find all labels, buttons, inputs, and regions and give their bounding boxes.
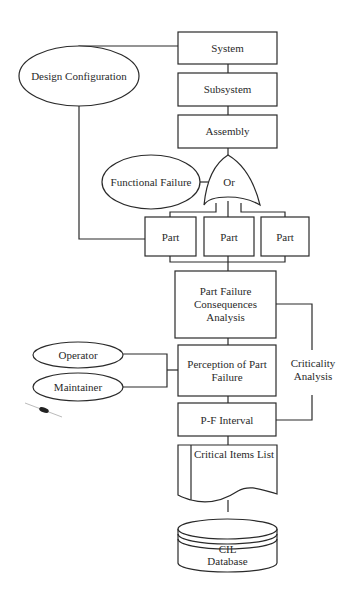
svg-text:Part: Part bbox=[162, 231, 180, 243]
ellipse-functional-failure: Functional Failure bbox=[102, 155, 200, 209]
svg-text:Part: Part bbox=[276, 231, 294, 243]
svg-text:Critical Items List: Critical Items List bbox=[194, 448, 274, 460]
svg-text:Maintainer: Maintainer bbox=[54, 381, 103, 393]
svg-text:Operator: Operator bbox=[58, 349, 97, 361]
svg-text:Criticality: Criticality bbox=[291, 357, 336, 369]
box-part-failure-consequences: Part Failure Consequences Analysis bbox=[175, 271, 276, 338]
label-criticality-analysis: Criticality Analysis bbox=[291, 357, 336, 382]
document-critical-items-list: Critical Items List bbox=[178, 445, 277, 502]
svg-text:Analysis: Analysis bbox=[294, 370, 333, 382]
svg-text:Subsystem: Subsystem bbox=[204, 83, 252, 95]
svg-text:Analysis: Analysis bbox=[206, 311, 245, 323]
box-subsystem: Subsystem bbox=[178, 73, 277, 106]
svg-text:Failure: Failure bbox=[211, 371, 242, 383]
database-cil: CIL Database bbox=[178, 519, 277, 572]
box-part-3: Part bbox=[261, 217, 309, 256]
box-system: System bbox=[178, 32, 277, 64]
svg-text:Design Configuration: Design Configuration bbox=[31, 70, 127, 82]
svg-text:Perception of Part: Perception of Part bbox=[187, 358, 266, 370]
svg-text:CIL: CIL bbox=[219, 543, 237, 555]
box-part-1: Part bbox=[145, 217, 196, 256]
ellipse-design-configuration: Design Configuration bbox=[19, 46, 139, 106]
svg-text:Part: Part bbox=[220, 231, 238, 243]
svg-text:System: System bbox=[211, 42, 244, 54]
svg-text:Database: Database bbox=[207, 555, 247, 567]
svg-text:Consequences: Consequences bbox=[194, 298, 257, 310]
box-assembly: Assembly bbox=[178, 115, 277, 148]
scan-smudge bbox=[25, 403, 62, 417]
svg-text:Part Failure: Part Failure bbox=[200, 285, 252, 297]
svg-text:Assembly: Assembly bbox=[206, 125, 251, 137]
ellipse-operator: Operator bbox=[33, 342, 123, 368]
box-pf-interval: P-F Interval bbox=[178, 403, 276, 436]
svg-text:Or: Or bbox=[223, 176, 235, 188]
or-gate: Or bbox=[204, 155, 260, 205]
svg-text:P-F Interval: P-F Interval bbox=[201, 414, 254, 426]
box-part-2: Part bbox=[204, 217, 254, 256]
box-perception: Perception of Part Failure bbox=[178, 345, 276, 396]
ellipse-maintainer: Maintainer bbox=[33, 373, 123, 401]
flow-diagram: System Subsystem Assembly Design Configu… bbox=[0, 0, 349, 589]
svg-text:Functional Failure: Functional Failure bbox=[111, 176, 192, 188]
